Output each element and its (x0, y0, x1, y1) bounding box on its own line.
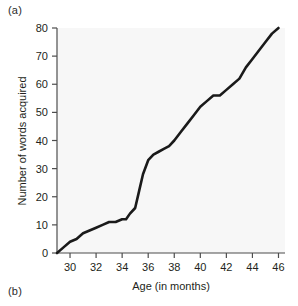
y-axis-title: Number of words acquired (16, 76, 28, 205)
y-tick-label: 0 (42, 247, 48, 259)
x-tick-label: 46 (272, 261, 284, 273)
x-axis-ticks (70, 253, 278, 258)
x-axis-title: Age (in months) (132, 280, 210, 292)
y-tick-label: 60 (36, 78, 48, 90)
y-tick-label: 20 (36, 191, 48, 203)
x-tick-label: 42 (220, 261, 232, 273)
x-axis-tick-labels: 303234363840424446 (64, 261, 285, 273)
x-tick-label: 32 (90, 261, 102, 273)
y-tick-label: 50 (36, 106, 48, 118)
y-tick-label: 10 (36, 219, 48, 231)
x-tick-label: 40 (194, 261, 206, 273)
plot-svg: 303234363840424446 01020304050607080 Age… (0, 0, 298, 306)
panel-label-b: (b) (8, 285, 22, 297)
y-axis-tick-labels: 01020304050607080 (36, 22, 48, 259)
y-tick-label: 30 (36, 163, 48, 175)
x-tick-label: 38 (168, 261, 180, 273)
line-chart: 303234363840424446 01020304050607080 Age… (0, 0, 298, 306)
x-tick-label: 44 (246, 261, 258, 273)
figure-panel: (a) 303234363840424446 01020304050607080… (0, 0, 298, 306)
y-tick-label: 40 (36, 135, 48, 147)
x-tick-label: 34 (116, 261, 128, 273)
y-axis-ticks (52, 28, 57, 253)
y-tick-label: 80 (36, 22, 48, 34)
x-tick-label: 30 (64, 261, 76, 273)
y-tick-label: 70 (36, 50, 48, 62)
x-tick-label: 36 (142, 261, 154, 273)
